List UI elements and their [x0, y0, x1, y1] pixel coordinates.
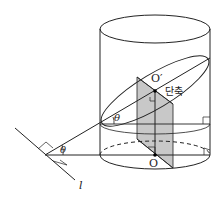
- right-angle-mark-upper-right: [203, 117, 210, 124]
- major-axis-line: [45, 58, 210, 155]
- label-o: O: [149, 158, 158, 169]
- diagram-canvas: [0, 0, 222, 198]
- label-o-prime: O′: [151, 73, 163, 84]
- label-minor-axis: 단축: [165, 87, 183, 97]
- cylinder-top: [100, 15, 210, 43]
- label-theta-upper: θ: [114, 113, 120, 123]
- right-angle-mark-lower-right: [204, 148, 210, 155]
- right-angle-mark-l-upper: [38, 142, 53, 149]
- label-line-l: l: [79, 180, 83, 191]
- point-o-prime: [153, 89, 157, 93]
- label-theta-lower: θ: [60, 145, 66, 155]
